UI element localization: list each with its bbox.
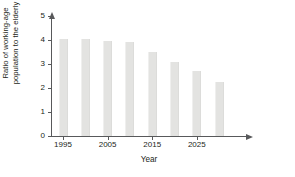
y-tick-mark <box>48 64 52 65</box>
x-axis-arrow-icon <box>246 134 253 140</box>
y-tick-label: 3 <box>34 60 45 68</box>
bar <box>215 82 224 136</box>
plot-area: 012345 1995200520152025 <box>51 14 247 137</box>
bar-chart-figure: Ratio of working-age population to the e… <box>0 0 295 177</box>
bar <box>170 62 179 136</box>
x-tick-label: 2005 <box>91 140 125 149</box>
y-tick-mark <box>48 40 52 41</box>
bar <box>81 39 90 136</box>
y-tick-mark <box>48 112 52 113</box>
bar <box>192 71 201 136</box>
y-axis-label: Ratio of working-age population to the e… <box>1 0 31 105</box>
bar <box>103 41 112 136</box>
bar <box>59 39 68 136</box>
y-tick-label: 4 <box>34 36 45 44</box>
y-tick-label: 2 <box>34 84 45 92</box>
y-axis-label-line-2: population to the elderly <box>11 0 21 105</box>
y-axis-label-line-1: Ratio of working-age <box>1 0 11 105</box>
y-tick-mark <box>48 136 52 137</box>
bar <box>148 52 157 136</box>
y-tick-mark <box>48 16 52 17</box>
y-tick-label: 1 <box>34 108 45 116</box>
x-tick-label: 1995 <box>46 140 80 149</box>
x-axis-label: Year <box>51 155 247 164</box>
x-tick-label: 2025 <box>180 140 214 149</box>
y-tick-label: 5 <box>34 12 45 20</box>
y-tick-label: 0 <box>34 132 45 140</box>
x-axis-line <box>51 136 247 137</box>
bar <box>125 42 134 136</box>
y-tick-mark <box>48 88 52 89</box>
x-tick-label: 2015 <box>135 140 169 149</box>
y-axis-line <box>51 18 52 137</box>
